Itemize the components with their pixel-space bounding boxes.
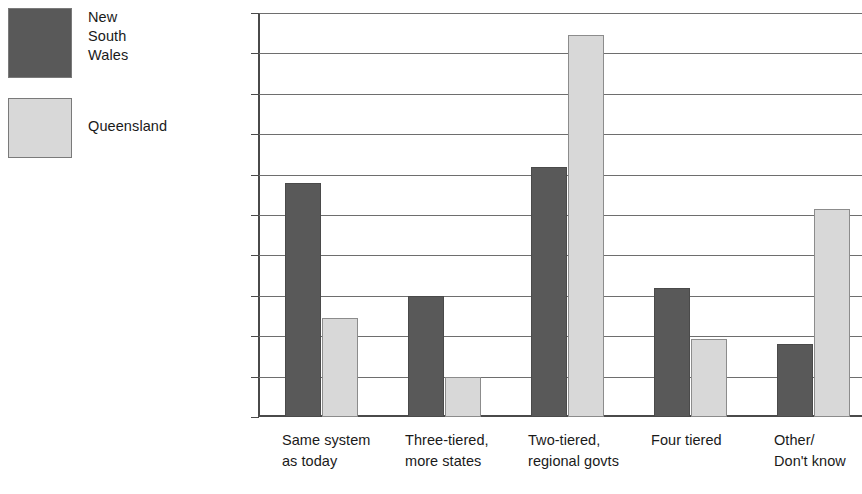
gridline [258,94,862,95]
y-axis-tick [251,94,259,95]
x-axis: Same system as todayThree-tiered, more s… [258,430,862,490]
x-axis-category-label: Four tiered [651,430,722,451]
bar [285,183,321,417]
gridline [258,53,862,54]
bar [654,288,690,417]
y-axis-tick [251,134,259,135]
y-axis-tick [251,296,259,297]
y-axis-tick [251,53,259,54]
bar [691,339,727,417]
bar [531,167,567,417]
bar [814,209,850,417]
bar [445,377,481,417]
y-axis-tick [251,336,259,337]
plot-area [258,13,862,417]
x-axis-category-label: Two-tiered, regional govts [528,430,619,472]
x-axis-category-label: Same system as today [282,430,370,472]
y-axis: 50%454035302520151050 [0,13,250,423]
gridline [258,134,862,135]
y-axis-tick [251,13,259,14]
y-axis-tick [251,377,259,378]
bar [408,296,444,417]
y-axis-tick [251,215,259,216]
x-axis-category-label: Three-tiered, more states [405,430,489,472]
y-axis-tick [251,255,259,256]
x-axis-category-label: Other/ Don't know [774,430,846,472]
y-axis-tick [251,175,259,176]
y-axis-tick [251,417,259,418]
bar [322,318,358,417]
bar [777,344,813,417]
bar [568,35,604,417]
bar-chart-figure: New South Wales Queensland 50%4540353025… [0,0,862,494]
